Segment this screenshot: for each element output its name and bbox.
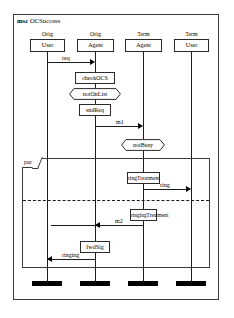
msc-keyword: msc bbox=[17, 17, 28, 24]
lifeline-qualifier-term-agent: Term bbox=[125, 31, 162, 38]
message-line-req bbox=[47, 62, 91, 63]
message-line-ringing bbox=[47, 259, 95, 260]
lifeline-head-orig-agent[interactable]: Agent bbox=[77, 39, 114, 52]
message-label-m1: m1 bbox=[116, 119, 124, 126]
message-label-ring: ring bbox=[160, 182, 170, 189]
condition-label-notOnList: notOnList bbox=[83, 91, 107, 97]
lifeline-terminator-orig-agent bbox=[80, 281, 110, 286]
par-fragment-frame bbox=[22, 158, 210, 268]
lifeline-head-term-user[interactable]: User bbox=[174, 39, 209, 52]
action-sndReq[interactable]: sndReq bbox=[79, 104, 111, 116]
message-arrowhead-ringing bbox=[47, 256, 52, 262]
action-ringingTreatment[interactable]: ringingTreatment bbox=[130, 209, 157, 221]
message-arrowhead-m1 bbox=[138, 123, 143, 129]
message-arrowhead-req bbox=[90, 59, 95, 65]
condition-label-notBusy: notBusy bbox=[133, 142, 153, 148]
message-label-m2: m2 bbox=[115, 218, 123, 225]
message-label-req: req bbox=[62, 55, 70, 62]
message-arrowhead-ring bbox=[186, 186, 191, 192]
msc-diagram-canvas: msc OCSuccess Orig User Orig Agent Term … bbox=[0, 0, 234, 318]
lifeline-terminator-term-agent bbox=[128, 281, 158, 286]
action-ringTreatment[interactable]: ringTreatment bbox=[127, 172, 160, 184]
lifeline-head-orig-user[interactable]: User bbox=[30, 39, 65, 52]
par-fragment-separator bbox=[23, 200, 209, 201]
message-line-ring bbox=[143, 189, 187, 190]
message-arrowhead-m2 bbox=[95, 222, 100, 228]
message-label-ringing: ringing bbox=[62, 252, 79, 259]
msc-title: msc OCSuccess bbox=[17, 17, 60, 25]
lifeline-terminator-orig-user bbox=[32, 281, 62, 286]
action-checkOCS[interactable]: checkOCS bbox=[75, 72, 115, 84]
lifeline-terminator-term-user bbox=[176, 281, 206, 286]
condition-notOnList[interactable]: notOnList bbox=[69, 88, 121, 100]
par-fragment-operator: par bbox=[22, 158, 38, 168]
lifeline-qualifier-orig-user: Orig bbox=[30, 31, 65, 38]
action-fwdSig[interactable]: fwdSig bbox=[80, 241, 110, 253]
condition-notBusy[interactable]: notBusy bbox=[121, 139, 165, 151]
lifeline-head-term-agent[interactable]: Agent bbox=[125, 39, 162, 52]
lifeline-qualifier-orig-agent: Orig bbox=[77, 31, 114, 38]
lifeline-qualifier-term-user: Term bbox=[174, 31, 209, 38]
message-line-m1 bbox=[95, 126, 139, 127]
msc-name: OCSuccess bbox=[30, 17, 61, 24]
